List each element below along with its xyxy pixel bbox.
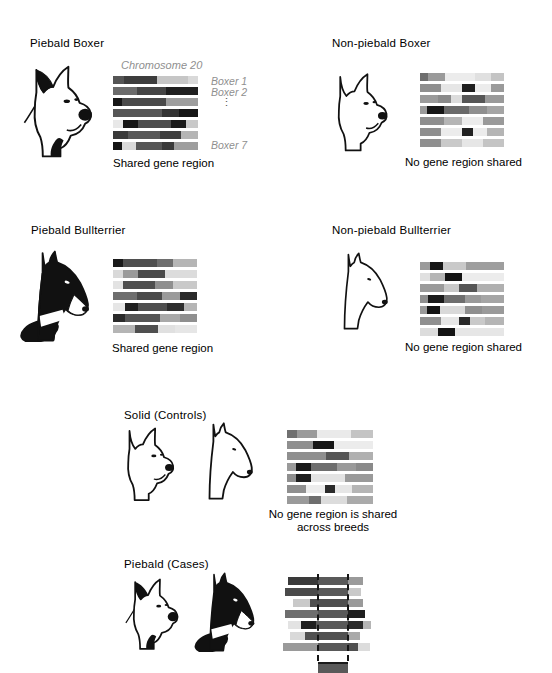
row-label-ellipsis: ⋮ [221, 96, 232, 108]
chromosome-segment [167, 303, 184, 311]
chromosome-segment [309, 496, 322, 504]
eye [64, 99, 70, 103]
chromosome-bar [113, 325, 197, 333]
chromosome-segment [420, 106, 427, 114]
chromosome-segment [135, 325, 159, 333]
chromosome-segment [348, 577, 363, 585]
chromosome-segment [113, 131, 128, 139]
chromosome-segment [465, 306, 482, 314]
chromosome-segment [113, 303, 125, 311]
chromosome-segment [462, 95, 486, 103]
chromosome-segment [128, 131, 159, 139]
chromosome-bar [420, 106, 504, 114]
chromosome-segment [138, 120, 170, 128]
chromosome-segment [113, 120, 123, 128]
chromosome-bar [113, 314, 197, 322]
chromosome-segment [349, 452, 373, 460]
chromosome-segment [125, 303, 138, 311]
caption-shared-gene-region-bullterrier: Shared gene region [112, 342, 213, 354]
chromosome-bar [113, 76, 198, 84]
chromosome-segment [441, 317, 459, 325]
chromosome-segment [113, 142, 122, 150]
chromosome-segment [451, 95, 462, 103]
chromosome-segment [420, 273, 430, 281]
panel-title-piebald-boxer: Piebald Boxer [30, 37, 104, 49]
chromosome-segment [287, 485, 306, 493]
chromosome-bar [420, 139, 504, 147]
chromosome-segment [438, 328, 455, 336]
chromosome-bar [290, 632, 378, 640]
case-bullterrier-illustration [190, 572, 270, 652]
chromosome-segment [462, 128, 473, 136]
chromosome-segment [462, 117, 483, 125]
chromosome-segment [326, 452, 349, 460]
chromosome-bar [288, 577, 378, 585]
chromosome-segment [347, 496, 373, 504]
chromosome-segment [348, 621, 363, 629]
solid-boxer-illustration [328, 70, 396, 152]
chromosome-segment [491, 73, 504, 81]
chromosome-segment [186, 120, 198, 128]
chromosome-bar [420, 84, 504, 92]
chromosome-segment [287, 474, 296, 482]
chromosome-segment [441, 139, 462, 147]
chromosome-segment [290, 632, 305, 640]
chromosome-bar [113, 87, 198, 95]
chromosome-segment [482, 306, 504, 314]
chromosome-segment [420, 317, 441, 325]
chromosome-segment [316, 621, 348, 629]
caption-no-gene-region-shared-boxer: No gene region shared [405, 156, 522, 168]
chromosome-segment [288, 621, 301, 629]
chromosome-segment [444, 106, 469, 114]
caption-no-gene-region-shared-across-breeds: No gene region is shared across breeds [268, 508, 398, 534]
chromosome-segment [445, 273, 462, 281]
chromosome-segment [428, 73, 445, 81]
chromosome-segment [285, 610, 318, 618]
piebald-boxer-chromosomes [113, 76, 198, 153]
chromosome-segment [155, 281, 173, 289]
chromosome-segment [137, 87, 166, 95]
solid-bullterrier-head [328, 252, 400, 330]
nose-patch [78, 109, 92, 121]
chromosome-segment [420, 84, 441, 92]
chromosome-segment [438, 95, 451, 103]
chromosome-segment [335, 485, 352, 493]
solid-boxer-head [328, 70, 396, 152]
chromosome-segment [321, 496, 347, 504]
control-bullterrier-illustration [190, 422, 268, 500]
chromosome-segment [487, 106, 504, 114]
chromosome-segment [444, 117, 462, 125]
chromosome-bar [113, 98, 198, 106]
chromosome-segment [363, 621, 371, 629]
chromosome-segment [287, 463, 296, 471]
chromosome-segment [485, 95, 503, 103]
chromosome-segment [138, 270, 165, 278]
panel-title-piebald-cases: Piebald (Cases) [124, 558, 209, 570]
piebald-bullterrier-illustration [20, 250, 102, 342]
piebald-boxer-head [22, 62, 102, 158]
chromosome-segment [175, 325, 197, 333]
chromosome-segment [420, 306, 427, 314]
chromosome-segment [491, 84, 504, 92]
chromosome-segment [301, 621, 316, 629]
chromosome-segment [420, 73, 428, 81]
chromosome-segment [440, 306, 465, 314]
isolated-shared-gene-segment [318, 662, 348, 673]
chromosome-segment [188, 76, 198, 84]
chromosome-segment [181, 131, 198, 139]
chromosome-bar [287, 485, 373, 493]
chromosome-bar [113, 142, 198, 150]
chromosome-segment [420, 328, 438, 336]
non-piebald-boxer-chromosomes [420, 73, 504, 150]
chromosome-segment [465, 295, 482, 303]
chromosome-segment [113, 270, 123, 278]
chromosome-segment [125, 314, 160, 322]
chromosome-bar [420, 117, 504, 125]
chromosome-segment [122, 98, 166, 106]
chromosome-segment [459, 317, 470, 325]
chromosome-bar [113, 292, 197, 300]
chromosome-bar [113, 270, 197, 278]
chromosome-segment [477, 284, 504, 292]
chromosome-bar [287, 441, 373, 449]
chromosome-bar [287, 496, 373, 504]
